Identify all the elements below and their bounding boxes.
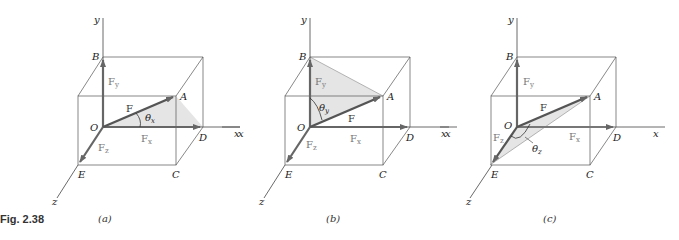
figure-label: Fig. 2.38 (0, 213, 44, 225)
label-point-e: E (77, 169, 86, 180)
label-angle-sub: x (151, 117, 155, 125)
label-vector-fy-sub: y (114, 81, 119, 89)
label-point-e: E (490, 169, 499, 180)
label-z-axis: z (258, 196, 265, 207)
z-axis (470, 165, 492, 198)
label-x-axis-left: x (441, 128, 447, 139)
panel-c: y x x z B A O D E C F Fy Fx Fz θz (c) (440, 14, 665, 224)
label-point-d: D (405, 132, 414, 143)
label-vector-fz: F (493, 132, 500, 143)
label-y-axis: y (93, 14, 100, 25)
label-vector-fy: F (523, 76, 530, 87)
label-vector-fz-sub: z (313, 144, 317, 152)
label-y-axis: y (507, 14, 514, 25)
label-vector-fy: F (108, 76, 115, 87)
label-vector-fz-sub: z (105, 147, 109, 155)
label-vector-fx-sub: x (148, 138, 152, 146)
caption-c: (c) (543, 213, 557, 224)
label-point-o: O (297, 122, 305, 133)
svg-text:Fy: Fy (523, 76, 534, 89)
label-point-o: O (504, 120, 512, 131)
svg-text:Fz: Fz (306, 139, 317, 152)
label-point-a: A (179, 91, 187, 102)
svg-text:Fy: Fy (108, 76, 119, 89)
label-vector-f: F (540, 102, 547, 113)
label-vector-fz-sub: z (500, 137, 504, 145)
svg-text:Fx: Fx (569, 131, 580, 144)
svg-text:Fz: Fz (493, 132, 504, 145)
svg-text:θz: θz (532, 143, 542, 156)
label-point-c: C (586, 169, 594, 180)
label-angle-sub: z (537, 148, 542, 156)
label-vector-fz: F (98, 142, 105, 153)
label-vector-f: F (126, 103, 133, 114)
label-point-a: A (593, 91, 601, 102)
caption-b: (b) (326, 213, 340, 224)
z-axis (264, 165, 285, 198)
label-vector-fy: F (315, 76, 322, 87)
label-point-b: B (298, 51, 306, 62)
label-vector-fx-sub: x (357, 138, 361, 146)
label-point-o: O (90, 122, 98, 133)
svg-text:Fx: Fx (350, 133, 361, 146)
svg-text:Fz: Fz (98, 142, 109, 155)
label-vector-fy-sub: y (529, 81, 534, 89)
label-y-axis: y (300, 14, 307, 25)
label-point-c: C (379, 169, 387, 180)
label-x-axis: x (653, 128, 659, 139)
label-vector-fx-sub: x (576, 136, 580, 144)
label-vector-fy-sub: y (321, 81, 326, 89)
z-axis (57, 165, 78, 198)
label-x-axis-left: x (234, 128, 240, 139)
panel-b: y x x z B A O D E C F Fy Fx Fz θy (b) (222, 14, 457, 224)
label-point-d: D (612, 132, 621, 143)
caption-a: (a) (98, 213, 112, 224)
label-z-axis: z (465, 196, 472, 207)
svg-text:Fx: Fx (141, 133, 152, 146)
label-z-axis: z (51, 196, 58, 207)
label-point-e: E (284, 169, 293, 180)
label-point-b: B (91, 51, 99, 62)
figure-canvas: Fig. 2.38 y x z B A O D E C F (0, 0, 679, 240)
label-point-d: D (198, 132, 207, 143)
label-point-c: C (172, 169, 180, 180)
label-point-b: B (505, 51, 513, 62)
label-vector-fx: F (569, 131, 576, 142)
label-vector-fz: F (306, 139, 313, 150)
label-point-a: A (386, 91, 394, 102)
label-vector-f: F (348, 113, 355, 124)
panel-a: y x z B A O D E C F Fy Fx Fz θx (a) (51, 14, 244, 224)
label-vector-fx: F (141, 133, 148, 144)
label-vector-fx: F (350, 133, 357, 144)
